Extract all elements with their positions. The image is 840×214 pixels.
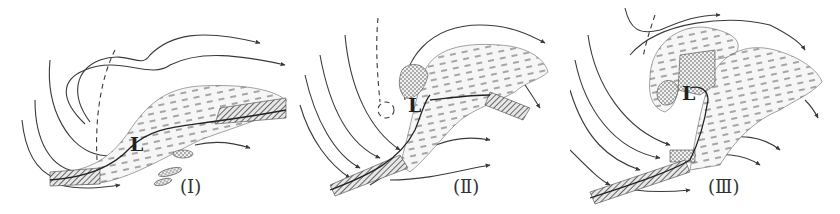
stage-label: (Ⅰ) — [180, 176, 201, 197]
low-pressure-marker: L — [130, 133, 143, 155]
cyclone-stage-1-diagram — [0, 0, 290, 214]
stage-label: (Ⅱ) — [453, 176, 479, 197]
low-pressure-marker: L — [408, 94, 421, 116]
low-pressure-marker: L — [682, 82, 695, 104]
panel-stage-3: L (Ⅲ) — [570, 0, 840, 214]
panel-stage-2: L (Ⅱ) — [290, 0, 570, 214]
cyclone-stage-3-diagram — [570, 0, 840, 214]
cyclone-stage-2-diagram — [290, 0, 570, 214]
panel-stage-1: L (Ⅰ) — [0, 0, 290, 214]
stage-label: (Ⅲ) — [708, 176, 739, 197]
